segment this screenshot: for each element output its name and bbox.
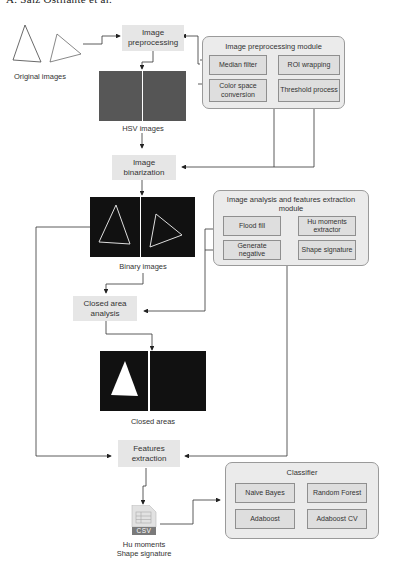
original-images-caption: Original images (0, 72, 80, 81)
binary-images-caption: Binary images (100, 262, 186, 271)
random-forest: Random Forest (307, 483, 367, 503)
naive-bayes: Naive Bayes (235, 483, 295, 503)
closed-areas-caption: Closed areas (110, 417, 196, 426)
binary-images (90, 197, 195, 257)
color-space-conversion: Color space conversion (209, 79, 267, 102)
module-title: Image analysis and features extraction m… (214, 195, 368, 213)
step-features-extraction: Features extraction (118, 440, 180, 467)
shape-signature: Shape signature (298, 240, 356, 260)
step-closed-area-analysis: Closed area analysis (73, 296, 137, 321)
step-image-preprocessing: Image preprocessing (122, 25, 184, 51)
module-title: Classifier (226, 468, 378, 477)
image-analysis-module: Image analysis and features extraction m… (213, 190, 369, 266)
adaboost: Adaboost (235, 509, 295, 529)
csv-caption-line2: Shape signature (104, 549, 184, 558)
step-image-binarization: Image binarization (112, 155, 176, 180)
threshold-process: Threshold process (278, 79, 340, 102)
closed-areas-images (100, 351, 206, 411)
hsv-image-1 (99, 71, 142, 121)
hsv-image-2 (143, 71, 186, 121)
original-images (5, 22, 85, 64)
module-title: Image preprocessing module (203, 42, 344, 51)
image-preprocessing-module: Image preprocessing module Median filter… (202, 36, 345, 109)
median-filter: Median filter (209, 55, 267, 75)
flood-fill: Flood fill (223, 216, 281, 236)
classifier-module: Classifier Naive Bayes Random Forest Ada… (225, 462, 379, 539)
csv-caption-line1: Hu moments (104, 540, 184, 549)
hsv-images-caption: HSV images (100, 124, 186, 133)
adaboost-cv: Adaboost CV (307, 509, 367, 529)
roi-wrapping: ROI wrapping (278, 55, 340, 75)
generate-negative: Generate negative (223, 240, 281, 260)
hu-moments-extractor: Hu moments extractor (298, 216, 356, 236)
csv-label: CSV (131, 526, 157, 535)
